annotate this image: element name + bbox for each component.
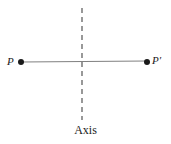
point-p-marker (18, 59, 24, 65)
axis-caption-label: Axis (0, 124, 171, 136)
point-p-label: P (7, 56, 14, 67)
point-p-prime-label: P′ (152, 55, 161, 66)
point-p-prime-marker (144, 59, 150, 65)
reflection-figure: P P′ Axis (0, 0, 171, 144)
